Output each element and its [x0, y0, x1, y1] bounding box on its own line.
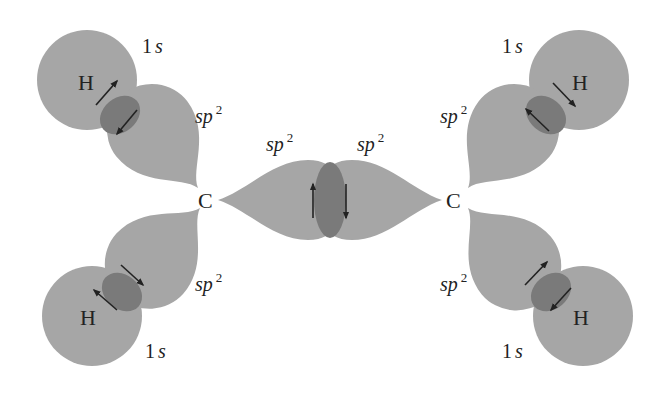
atom-label-h-bottom-left: H [80, 305, 96, 330]
orbital-label-1s-top-left: 1s [142, 35, 163, 57]
atom-label-h-top-left: H [78, 70, 94, 95]
orbital-label-1s-bottom-right: 1s [502, 340, 523, 362]
atom-label-c-left: C [198, 188, 213, 213]
orbital-label-sp2-top-left: sp2 [195, 102, 222, 128]
orbital-label-sp2-center-right: sp2 [357, 130, 384, 156]
atom-label-h-bottom-right: H [573, 305, 589, 330]
orbital-label-sp2-center-left: sp2 [266, 130, 293, 156]
atom-label-c-right: C [446, 188, 461, 213]
orbital-label-sp2-bottom-right: sp2 [440, 270, 467, 296]
orbital-label-1s-top-right: 1s [502, 35, 523, 57]
ethylene-orbital-diagram: H H H H C C 1s 1s 1s 1s sp2 sp2 sp2 sp2 … [0, 0, 666, 399]
orbital-label-1s-bottom-left: 1s [145, 340, 166, 362]
orbital-label-sp2-top-right: sp2 [440, 102, 467, 128]
overlap-center [314, 162, 346, 238]
atom-label-h-top-right: H [572, 70, 588, 95]
orbital-label-sp2-bottom-left: sp2 [195, 270, 222, 296]
